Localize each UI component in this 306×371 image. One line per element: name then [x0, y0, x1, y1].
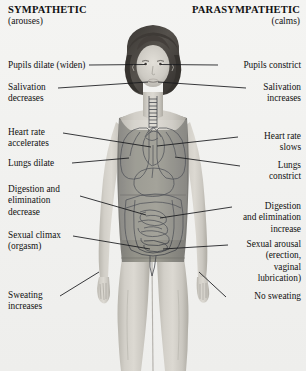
leader-pupils-constrict [161, 65, 218, 66]
label-pupils-dilate: Pupils dilate (widen) [8, 60, 85, 71]
label-lungs-constrict: Lungs constrict [269, 160, 301, 183]
label-heart-rate-accelerates: Heart rate accelerates [8, 127, 49, 150]
header-parasympathetic-title: PARASYMPATHETIC [192, 4, 300, 16]
label-digestion-decrease: Digestion and elimination decrease [8, 184, 60, 218]
header-parasympathetic: PARASYMPATHETIC (calms) [192, 4, 300, 26]
label-salivation-increases: Salivation increases [263, 82, 301, 105]
header-sympathetic-title: SYMPATHETIC [8, 4, 87, 16]
label-salivation-decreases: Salivation decreases [8, 82, 46, 105]
label-sexual-arousal: Sexual arousal (erection, vaginal lubric… [247, 239, 301, 284]
diagram-canvas: SYMPATHETIC (arouses) PARASYMPATHETIC (c… [0, 0, 306, 371]
header-sympathetic: SYMPATHETIC (arouses) [8, 4, 87, 26]
label-no-sweating: No sweating [254, 291, 301, 302]
header-sympathetic-subtitle: (arouses) [8, 16, 87, 27]
label-digestion-increase: Digestion and elimination increase [243, 201, 301, 235]
label-sexual-climax: Sexual climax (orgasm) [8, 230, 61, 253]
leader-pupils-dilate [89, 65, 145, 66]
label-sweating-increases: Sweating increases [8, 290, 43, 313]
label-pupils-constrict: Pupils constrict [243, 60, 301, 71]
label-lungs-dilate: Lungs dilate [8, 158, 54, 169]
header-parasympathetic-subtitle: (calms) [192, 16, 300, 27]
label-heart-rate-slows: Heart rate slows [264, 131, 301, 154]
